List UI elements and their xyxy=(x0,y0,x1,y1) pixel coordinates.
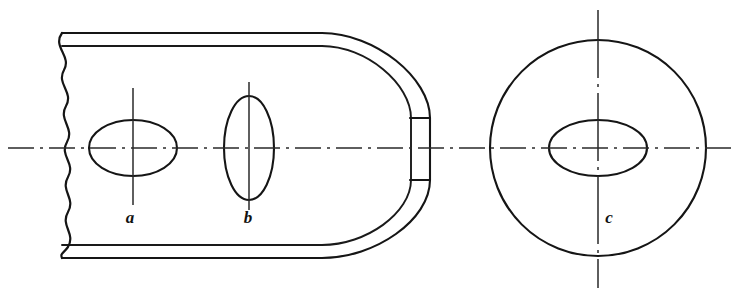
label-c: c xyxy=(605,208,613,227)
centerlines xyxy=(8,10,733,288)
technical-drawing-canvas: a b c xyxy=(0,0,739,296)
engineering-drawing: a b c xyxy=(0,0,739,296)
bar-inner-profile xyxy=(62,46,411,245)
hole-labels: a b c xyxy=(126,208,613,227)
label-b: b xyxy=(244,208,253,227)
label-a: a xyxy=(126,208,135,227)
left-break-line xyxy=(59,33,70,258)
